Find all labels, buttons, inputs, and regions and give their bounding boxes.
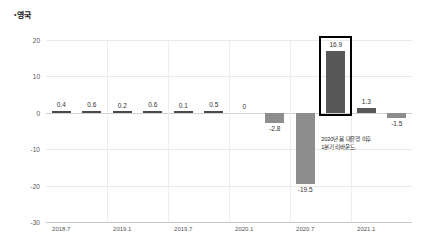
bar-label: 0.6 [87, 101, 96, 108]
bar [174, 111, 193, 113]
bar [204, 111, 223, 113]
annotation-line-1: 2020년 봄 대유행 이후 [321, 135, 371, 144]
bar [82, 111, 101, 113]
bullet-icon: • [14, 11, 16, 18]
annotation-line-2: 1분기 리바운드. [321, 143, 371, 152]
gridline-x-4 [290, 40, 291, 222]
y-axis-tick-label: 10 [10, 73, 40, 80]
chart-annotation: 2020년 봄 대유행 이후 1분기 리바운드. [321, 135, 371, 152]
bar [387, 113, 406, 118]
gridline-x-2 [168, 40, 169, 222]
x-axis-tick-label: 2019.7 [174, 226, 192, 232]
y-axis-tick-label: -30 [10, 219, 40, 226]
bar [113, 111, 132, 113]
bar-label: -2.8 [269, 125, 280, 132]
bar [296, 113, 315, 184]
bar-label: -1.5 [391, 120, 402, 127]
x-axis-tick-label: 2019.1 [113, 226, 131, 232]
bar-label: 1.3 [362, 98, 371, 105]
bar-label: 0 [242, 103, 246, 110]
bar [357, 108, 376, 113]
chart-plot-area: 0.40.60.20.60.10.50-2.8-19.516.91.3-1.5 [46, 40, 412, 222]
x-axis-tick-label: 2020.7 [296, 226, 314, 232]
bar-label: 0.4 [57, 101, 66, 108]
bar [265, 113, 284, 123]
page-title: •영국 [14, 9, 31, 20]
bar-label: 0.5 [209, 101, 218, 108]
bar-label: 0.6 [148, 101, 157, 108]
highlight-box [319, 36, 352, 116]
gridline-x-3 [229, 40, 230, 222]
y-axis-tick-label: 20 [10, 37, 40, 44]
bar-label: -19.5 [298, 186, 313, 193]
y-axis-tick-label: -20 [10, 182, 40, 189]
x-axis-tick-label: 2018.7 [52, 226, 70, 232]
x-axis-tick-label: 2021.1 [357, 226, 375, 232]
bar [143, 111, 162, 113]
gridline-x-1 [107, 40, 108, 222]
x-axis-tick-label: 2020.1 [235, 226, 253, 232]
bar-label: 0.1 [179, 102, 188, 109]
y-axis-tick-label: -10 [10, 146, 40, 153]
gridline-y--30 [46, 222, 412, 223]
bar [52, 111, 71, 113]
chart-title-text: 영국 [17, 11, 31, 20]
bar-label: 0.2 [118, 102, 127, 109]
y-axis-tick-label: 0 [10, 109, 40, 116]
